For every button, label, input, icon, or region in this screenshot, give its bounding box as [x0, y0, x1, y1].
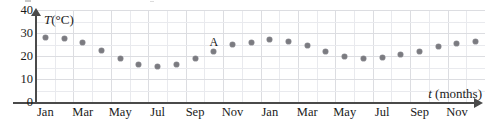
x-axis-variable: t [428, 86, 432, 101]
gridline-horizontal [36, 91, 485, 92]
data-point [473, 39, 478, 44]
data-point [249, 40, 254, 45]
gridline-horizontal [36, 79, 485, 80]
clipped-mark-mid [150, 1, 154, 2]
data-point [80, 40, 85, 45]
plot-gridlines [36, 10, 485, 102]
x-axis-tick-label: Jul [150, 106, 165, 119]
data-point [305, 43, 310, 48]
x-axis-title: t (months) [428, 86, 482, 102]
x-axis-line [13, 102, 476, 104]
data-point [193, 56, 198, 61]
y-axis-unit: (°C) [51, 12, 74, 27]
x-axis-tick-label: May [333, 106, 356, 119]
y-axis-tick-label: 10 [3, 73, 33, 86]
x-axis-tick-label: Mar [72, 106, 93, 119]
x-axis-tick-label: Jul [375, 106, 390, 119]
data-point [99, 48, 104, 53]
annotation-label: A [209, 36, 218, 48]
y-axis-line [35, 14, 37, 103]
gridline-horizontal [36, 56, 485, 57]
y-axis-tick-label: 0 [3, 96, 33, 109]
x-axis-unit: (months) [435, 86, 482, 101]
temperature-scatter-chart: 403020100 JanMarMayJulSepNovJanMarMayJul… [0, 0, 494, 130]
x-axis-tick-label: Sep [410, 106, 429, 119]
x-axis-tick-label: Mar [297, 106, 318, 119]
x-axis-tick-label: Sep [186, 106, 205, 119]
data-point [380, 55, 385, 60]
y-axis-tick-label: 30 [3, 27, 33, 40]
gridline-horizontal [36, 33, 485, 34]
gridline-horizontal [36, 68, 485, 69]
x-axis-tick-label: Nov [446, 106, 468, 119]
x-axis-tick-label: May [109, 106, 132, 119]
data-point [286, 39, 291, 44]
data-point [342, 54, 347, 59]
data-point [361, 56, 366, 61]
data-point [62, 36, 67, 41]
y-axis-tick-label: 40 [3, 4, 33, 17]
data-point [417, 49, 422, 54]
y-axis-tick-labels: 403020100 [0, 0, 33, 130]
data-point [230, 42, 235, 47]
y-axis-title: T(°C) [44, 12, 74, 28]
x-axis-tick-label: Jan [262, 106, 279, 119]
data-point [118, 56, 123, 61]
x-axis-tick-label: Nov [222, 106, 244, 119]
clipped-top-edge [0, 0, 494, 3]
gridline-horizontal [36, 10, 485, 11]
data-point [155, 64, 160, 69]
y-axis-tick-label: 20 [3, 50, 33, 63]
data-point [43, 35, 48, 40]
gridline-horizontal [36, 22, 485, 23]
data-point [174, 62, 179, 67]
x-axis-tick-label: Jan [37, 106, 54, 119]
gridline-horizontal [36, 45, 485, 46]
